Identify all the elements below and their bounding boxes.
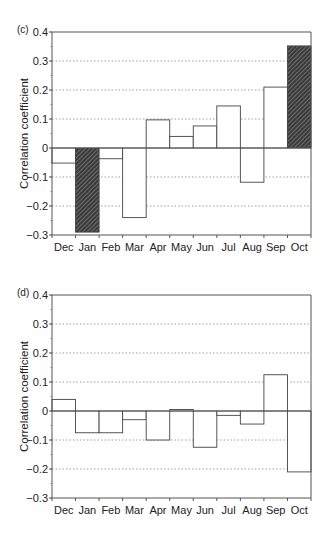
bar-apr xyxy=(146,411,170,440)
bar-oct xyxy=(287,46,311,148)
x-tick-label: Apr xyxy=(149,504,166,516)
bar-sep xyxy=(264,375,288,411)
bar-jun xyxy=(193,126,217,148)
chart-panel-c: 0.40.30.20.10−0.1−0.2−0.3DecJanFebMarApr… xyxy=(0,0,330,270)
x-tick-label: Mar xyxy=(125,504,144,516)
x-tick-label: Jul xyxy=(222,504,236,516)
x-tick-label: Sep xyxy=(266,504,286,516)
x-tick-label: Oct xyxy=(291,241,308,253)
bar-aug xyxy=(240,148,264,182)
bar-sep xyxy=(264,87,288,148)
y-axis-label: Correlation coefficient xyxy=(18,340,30,452)
panel-label: (d) xyxy=(17,287,29,298)
x-tick-label: May xyxy=(171,504,192,516)
bar-jun xyxy=(193,411,217,447)
y-tick-label: 0.3 xyxy=(33,55,48,67)
x-tick-label: Dec xyxy=(54,241,74,253)
bar-mar xyxy=(123,411,147,420)
bar-dec xyxy=(52,399,76,411)
chart-panel-d: 0.40.30.20.10−0.1−0.2−0.3DecJanFebMarApr… xyxy=(0,265,330,535)
y-axis-label: Correlation coefficient xyxy=(18,77,30,189)
bar-aug xyxy=(240,411,264,424)
y-tick-label: −0.2 xyxy=(26,463,48,475)
bar-feb xyxy=(99,411,123,433)
bar-mar xyxy=(123,148,147,218)
bar-jul xyxy=(217,411,241,415)
bar-may xyxy=(170,136,194,148)
y-tick-label: 0.1 xyxy=(33,113,48,125)
y-tick-label: −0.2 xyxy=(26,200,48,212)
bar-jul xyxy=(217,106,241,148)
y-tick-label: 0.1 xyxy=(33,376,48,388)
y-tick-label: 0.2 xyxy=(33,347,48,359)
x-tick-label: Jan xyxy=(78,504,96,516)
bar-feb xyxy=(99,148,123,159)
y-tick-label: −0.3 xyxy=(26,492,48,504)
bar-jan xyxy=(76,148,100,232)
bar-dec xyxy=(52,148,76,163)
y-tick-label: 0 xyxy=(42,142,48,154)
bar-chart-d: 0.40.30.20.10−0.1−0.2−0.3DecJanFebMarApr… xyxy=(0,265,330,535)
bar-jan xyxy=(76,411,100,433)
y-tick-label: 0 xyxy=(42,405,48,417)
x-tick-label: Apr xyxy=(149,241,166,253)
x-tick-label: Jun xyxy=(196,241,214,253)
x-tick-label: Oct xyxy=(291,504,308,516)
x-tick-label: Feb xyxy=(101,241,120,253)
bar-chart-c: 0.40.30.20.10−0.1−0.2−0.3DecJanFebMarApr… xyxy=(0,0,330,270)
x-tick-label: Jun xyxy=(196,504,214,516)
x-tick-label: Jan xyxy=(78,241,96,253)
x-tick-label: Feb xyxy=(101,504,120,516)
y-tick-label: 0.3 xyxy=(33,318,48,330)
y-tick-label: 0.4 xyxy=(33,26,48,38)
x-tick-label: Aug xyxy=(242,504,262,516)
x-tick-label: Aug xyxy=(242,241,262,253)
bar-apr xyxy=(146,120,170,148)
x-tick-label: Jul xyxy=(222,241,236,253)
bar-oct xyxy=(287,411,311,472)
panel-label: (c) xyxy=(17,24,29,35)
x-tick-label: Dec xyxy=(54,504,74,516)
x-tick-label: May xyxy=(171,241,192,253)
y-tick-label: 0.4 xyxy=(33,289,48,301)
y-tick-label: 0.2 xyxy=(33,84,48,96)
y-tick-label: −0.3 xyxy=(26,229,48,241)
x-tick-label: Mar xyxy=(125,241,144,253)
x-tick-label: Sep xyxy=(266,241,286,253)
